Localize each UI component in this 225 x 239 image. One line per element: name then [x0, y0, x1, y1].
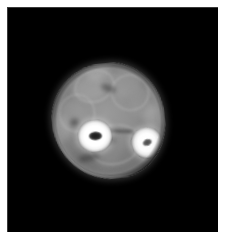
subcutaneous-fat-medial — [53, 115, 72, 143]
muscle-compartment-lateral — [129, 86, 162, 121]
dark-septa-layer — [46, 57, 158, 69]
subcutaneous-rim — [46, 57, 171, 184]
scan-page — [0, 0, 225, 239]
subcutaneous-fat-anterior — [84, 65, 111, 82]
bone-fibula — [127, 122, 168, 163]
scan-image-canvas[interactable] — [7, 7, 218, 232]
muscle-compartment-anterior — [71, 73, 108, 102]
septum-anterior — [100, 82, 117, 94]
vessel-medial — [70, 118, 80, 127]
fascial-plane-layer — [46, 57, 158, 69]
bone-tibia — [77, 119, 113, 153]
fascial-plane-lateral — [108, 71, 153, 114]
canvas-left-edge — [7, 7, 8, 232]
canvas-top-edge — [7, 7, 218, 8]
boundary-falloff — [46, 57, 171, 184]
septum-deep-posterior — [77, 150, 100, 164]
soft-tissue-layer — [46, 57, 158, 69]
limb-cross-section — [46, 57, 171, 184]
muscle-compartment-anterolateral — [105, 67, 144, 99]
fascial-plane-anterior — [70, 64, 119, 108]
